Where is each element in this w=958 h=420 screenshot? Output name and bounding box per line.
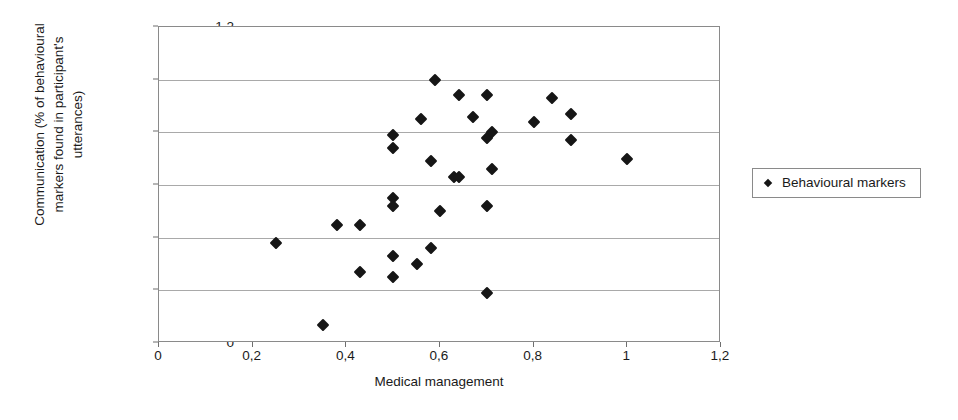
data-point [387,200,400,213]
x-tick-mark [345,342,346,347]
data-point [331,218,344,231]
data-point [387,271,400,284]
data-point [565,134,578,147]
diamond-marker-icon [764,178,772,186]
x-tick-label: 0,2 [242,348,261,363]
data-point [480,89,493,102]
data-point [565,108,578,121]
gridline-y-0-6 [159,185,719,186]
x-tick-label: 1,2 [711,348,730,363]
data-point [429,73,442,86]
x-axis-title: Medical management [158,374,720,389]
legend-entry-label: Behavioural markers [782,175,906,190]
x-tick-mark [533,342,534,347]
data-point [485,163,498,176]
data-point [480,287,493,300]
y-axis-title-line-2: markers found in participant's [49,0,68,285]
x-tick-label: 0,6 [430,348,449,363]
data-point [415,113,428,126]
data-point [546,92,559,105]
y-axis-title: Communication (% of behavioural markers … [30,0,87,285]
data-point [410,258,423,271]
data-point [527,115,540,128]
gridline-y-0-8 [159,132,719,133]
data-point [387,250,400,263]
data-point [317,318,330,331]
x-tick-mark [720,342,721,347]
x-tick-mark [439,342,440,347]
data-point [354,218,367,231]
data-point [387,129,400,142]
data-point [434,205,447,218]
data-point [466,110,479,123]
data-point [354,266,367,279]
gridline-y-0-2 [159,290,719,291]
data-point [387,142,400,155]
scatter-plot-figure: Communication (% of behavioural markers … [0,0,958,420]
data-point [480,200,493,213]
gridline-y-0-4 [159,238,719,239]
x-tick-label: 1 [623,348,631,363]
x-tick-mark [252,342,253,347]
y-axis-title-line-1: Communication (% of behavioural [30,0,49,285]
x-tick-label: 0,4 [336,348,355,363]
plot-area [158,26,720,342]
data-point [452,89,465,102]
data-point [424,242,437,255]
y-axis-title-line-3: utterances) [68,0,87,285]
data-point [424,155,437,168]
x-tick-label: 0,8 [523,348,542,363]
x-tick-label: 0 [154,348,162,363]
data-point [621,152,634,165]
x-tick-mark [158,342,159,347]
x-tick-mark [626,342,627,347]
chart-legend: Behavioural markers [752,168,921,198]
